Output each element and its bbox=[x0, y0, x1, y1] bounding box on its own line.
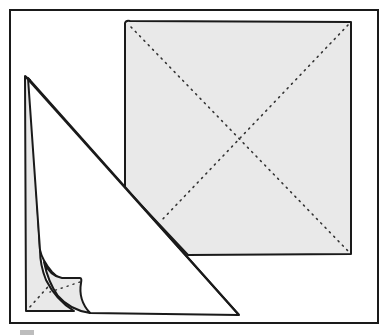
caption-mark bbox=[20, 330, 34, 335]
folding-diagram bbox=[0, 0, 384, 335]
diagram-canvas bbox=[0, 0, 384, 335]
